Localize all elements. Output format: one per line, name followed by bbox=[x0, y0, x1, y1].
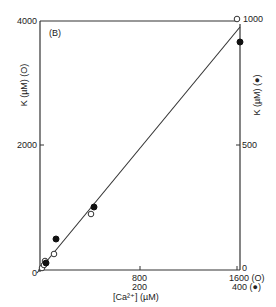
y-right-axis-title: K (µM) (●) bbox=[252, 65, 262, 125]
filled-point bbox=[91, 204, 97, 210]
y-right-tick-0: 0 bbox=[242, 263, 247, 273]
open-point bbox=[51, 251, 57, 257]
x-axis-title: [Ca²⁺] (µM) bbox=[113, 292, 159, 302]
x-tick-400: 400 (●) bbox=[232, 282, 261, 292]
chart-canvas bbox=[0, 0, 276, 307]
y-left-tick-4000: 4000 bbox=[17, 16, 37, 26]
panel-label: (B) bbox=[49, 28, 61, 38]
regression-line bbox=[37, 27, 240, 273]
y-right-tick-500: 500 bbox=[242, 140, 257, 150]
y-left-axis-title: K (µM) (O) bbox=[19, 55, 29, 115]
y-right-tick-1000: 1000 bbox=[243, 14, 263, 24]
filled-point bbox=[43, 260, 49, 266]
series-filled-circles bbox=[43, 39, 243, 266]
filled-point bbox=[237, 39, 243, 45]
open-point bbox=[88, 211, 94, 217]
x-tick-200: 200 bbox=[132, 282, 147, 292]
open-point bbox=[234, 16, 240, 22]
y-left-tick-2000: 2000 bbox=[17, 140, 37, 150]
series-open-circles bbox=[39, 16, 240, 271]
y-left-tick-0: 0 bbox=[32, 268, 37, 278]
filled-point bbox=[53, 236, 59, 242]
